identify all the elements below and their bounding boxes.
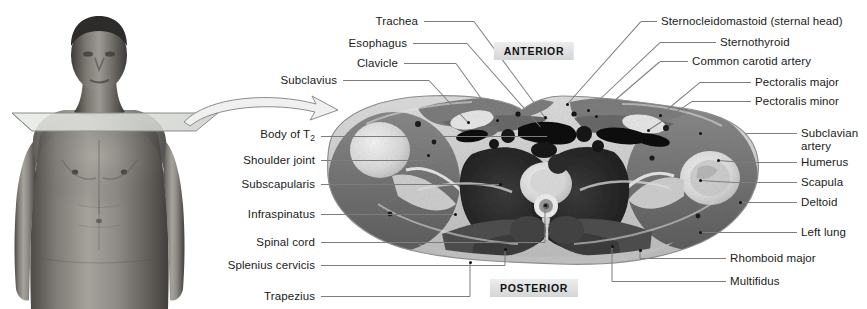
marker-pectoralis-major bbox=[659, 114, 662, 117]
label-text-deltoid: Deltoid bbox=[801, 196, 838, 209]
orientation-label-posterior: POSTERIOR bbox=[490, 279, 578, 297]
leader-rhomboid-major bbox=[640, 258, 726, 259]
label-spinal-cord: Spinal cord bbox=[165, 236, 315, 249]
label-left-lung: Left lung bbox=[801, 226, 846, 239]
leader-angled-spinal-cord bbox=[545, 206, 546, 243]
marker-trachea bbox=[544, 116, 547, 119]
marker-humerus bbox=[717, 159, 720, 162]
marker-shoulder-joint bbox=[427, 154, 430, 157]
leader-pectoralis-major bbox=[700, 82, 751, 83]
label-text2-subclavian: artery bbox=[801, 139, 858, 152]
marker-sternothyroid bbox=[587, 109, 590, 112]
label-text-left-lung: Left lung bbox=[801, 226, 846, 239]
leader-left-lung bbox=[700, 232, 797, 233]
label-infraspinatus: Infraspinatus bbox=[165, 208, 315, 221]
label-subscript-body-of-t2: 2 bbox=[310, 133, 315, 143]
label-sternocleidomastoid-sternal-head: Sternocleidomastoid (sternal head) bbox=[661, 15, 843, 28]
label-rhomboid-major: Rhomboid major bbox=[730, 252, 816, 265]
leader-scapula bbox=[735, 182, 797, 183]
marker-subclavian bbox=[699, 132, 702, 135]
marker-trapezius bbox=[469, 261, 472, 264]
label-esophagus: Esophagus bbox=[287, 37, 407, 50]
label-splenius-cervicis: Splenius cervicis bbox=[165, 259, 315, 272]
label-pectoralis-minor: Pectoralis minor bbox=[755, 95, 839, 108]
marker-sternocleidomastoid-sternal-head bbox=[566, 103, 569, 106]
leader-subscapularis bbox=[321, 184, 500, 185]
leader-shoulder-joint bbox=[321, 160, 428, 161]
leader-esophagus bbox=[413, 43, 467, 44]
leader-deltoid bbox=[740, 202, 797, 203]
leader-trapezius bbox=[321, 296, 470, 297]
label-text-scapula: Scapula bbox=[801, 176, 843, 189]
label-text-humerus: Humerus bbox=[801, 156, 848, 169]
label-text-multifidus: Multifidus bbox=[730, 275, 780, 288]
leader-trachea bbox=[424, 21, 474, 22]
marker-pectoralis-minor bbox=[647, 129, 650, 132]
label-text-spinal-cord: Spinal cord bbox=[256, 236, 315, 248]
label-trachea: Trachea bbox=[298, 15, 418, 28]
thorax-cross-section-image bbox=[322, 84, 764, 274]
orientation-label-anterior: ANTERIOR bbox=[494, 42, 574, 60]
label-sternothyroid: Sternothyroid bbox=[720, 36, 790, 49]
label-text-body-of-t2: Body of T bbox=[260, 128, 310, 140]
leader-body-of-t2 bbox=[321, 136, 548, 137]
leader-pectoralis-minor bbox=[692, 101, 751, 102]
leader-subclavian bbox=[745, 133, 797, 134]
anatomical-cross-section-figure: TracheaEsophagusClavicleSubclaviusSterno… bbox=[0, 0, 867, 309]
label-trapezius: Trapezius bbox=[165, 290, 315, 303]
label-text-rhomboid-major: Rhomboid major bbox=[730, 252, 816, 265]
marker-deltoid bbox=[739, 201, 742, 204]
label-subclavius: Subclavius bbox=[217, 74, 337, 87]
label-subclavian: Subclavianartery bbox=[801, 127, 858, 152]
label-humerus: Humerus bbox=[801, 156, 848, 169]
marker-infraspinatus bbox=[454, 213, 457, 216]
label-text-subclavian: Subclavian bbox=[801, 127, 858, 140]
leader-infraspinatus bbox=[321, 214, 455, 215]
leader-angled-rhomboid-major bbox=[640, 251, 641, 259]
label-shoulder-joint: Shoulder joint bbox=[165, 154, 315, 167]
label-multifidus: Multifidus bbox=[730, 275, 780, 288]
label-text-subscapularis: Subscapularis bbox=[241, 178, 315, 190]
label-body-of-t2: Body of T2 bbox=[165, 128, 315, 145]
leader-angled-multifidus bbox=[612, 247, 613, 282]
marker-splenius-cervicis bbox=[504, 248, 507, 251]
marker-spinal-cord bbox=[544, 204, 547, 207]
leader-sternothyroid bbox=[660, 42, 716, 43]
marker-rhomboid-major bbox=[639, 249, 642, 252]
label-scapula: Scapula bbox=[801, 176, 843, 189]
leader-humerus bbox=[745, 162, 797, 163]
marker-common-carotid-artery bbox=[595, 115, 598, 118]
marker-subscapularis bbox=[499, 183, 502, 186]
label-common-carotid-artery: Common carotid artery bbox=[692, 55, 811, 68]
leader-angled-trapezius bbox=[470, 263, 471, 297]
label-pectoralis-major: Pectoralis major bbox=[755, 76, 839, 89]
marker-clavicle bbox=[496, 119, 499, 122]
label-text-infraspinatus: Infraspinatus bbox=[248, 208, 315, 220]
label-text-shoulder-joint: Shoulder joint bbox=[243, 154, 315, 166]
leader-subclavius bbox=[343, 80, 429, 81]
marker-left-lung bbox=[699, 231, 702, 234]
leader-common-carotid-artery bbox=[660, 61, 688, 62]
marker-multifidus bbox=[611, 245, 614, 248]
label-clavicle: Clavicle bbox=[278, 57, 398, 70]
label-subscapularis: Subscapularis bbox=[165, 178, 315, 191]
marker-subclavius bbox=[467, 121, 470, 124]
leader-multifidus bbox=[612, 281, 726, 282]
marker-body-of-t2 bbox=[547, 135, 550, 138]
leader-splenius-cervicis bbox=[321, 265, 505, 266]
label-text-trapezius: Trapezius bbox=[264, 290, 315, 302]
marker-esophagus bbox=[540, 126, 543, 129]
leader-spinal-cord bbox=[321, 242, 545, 243]
leader-clavicle bbox=[404, 63, 456, 64]
leader-angled-splenius-cervicis bbox=[505, 250, 506, 266]
label-deltoid: Deltoid bbox=[801, 196, 838, 209]
leader-sternocleidomastoid-sternal-head bbox=[641, 21, 657, 22]
marker-scapula bbox=[699, 179, 702, 182]
label-text-splenius-cervicis: Splenius cervicis bbox=[228, 259, 315, 271]
